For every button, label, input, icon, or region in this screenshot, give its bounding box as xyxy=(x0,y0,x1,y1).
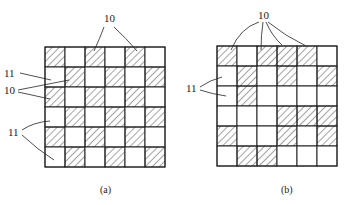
caption-a: (a) xyxy=(100,184,111,196)
hatched-cell xyxy=(237,66,257,86)
hatched-cell xyxy=(277,126,297,146)
hatched-cell xyxy=(45,87,65,107)
hatched-cell xyxy=(85,47,105,67)
caption-b: (b) xyxy=(281,184,293,196)
hatched-cell xyxy=(65,147,85,167)
blank-cell xyxy=(217,146,237,166)
hatched-cell xyxy=(125,127,145,147)
callout-label-10: 10 xyxy=(4,84,16,96)
hatched-cell xyxy=(237,146,257,166)
blank-cell xyxy=(317,86,337,106)
figure-a xyxy=(45,47,165,167)
blank-cell xyxy=(45,107,65,127)
blank-cell xyxy=(257,126,277,146)
blank-cell xyxy=(85,147,105,167)
hatched-cell xyxy=(105,67,125,87)
callout-label-10: 10 xyxy=(104,12,116,24)
callout-label-11: 11 xyxy=(4,67,15,79)
hatched-cell xyxy=(125,47,145,67)
blank-cell xyxy=(297,146,317,166)
blank-cell xyxy=(277,146,297,166)
hatched-cell xyxy=(65,67,85,87)
blank-cell xyxy=(45,147,65,167)
hatched-cell xyxy=(317,106,337,126)
blank-cell xyxy=(65,127,85,147)
blank-cell xyxy=(145,127,165,147)
hatched-cell xyxy=(45,47,65,67)
blank-cell xyxy=(277,86,297,106)
callout-label-11: 11 xyxy=(8,126,19,138)
blank-cell xyxy=(65,87,85,107)
hatched-cell xyxy=(105,147,125,167)
blank-cell xyxy=(65,47,85,67)
hatched-cell xyxy=(45,127,65,147)
blank-cell xyxy=(237,46,257,66)
hatched-cell xyxy=(297,106,317,126)
blank-cell xyxy=(317,46,337,66)
figure-b xyxy=(217,46,337,166)
hatched-cell xyxy=(65,107,85,127)
blank-cell xyxy=(297,126,317,146)
blank-cell xyxy=(237,126,257,146)
hatched-cell xyxy=(297,46,317,66)
blank-cell xyxy=(145,47,165,67)
hatched-cell xyxy=(85,127,105,147)
blank-cell xyxy=(105,87,125,107)
blank-cell xyxy=(257,106,277,126)
blank-cell xyxy=(237,106,257,126)
blank-cell xyxy=(105,127,125,147)
blank-cell xyxy=(85,107,105,127)
callout-label-11: 11 xyxy=(186,82,197,94)
blank-cell xyxy=(317,146,337,166)
hatched-cell xyxy=(217,46,237,66)
hatched-cell xyxy=(145,147,165,167)
hatched-cell xyxy=(317,126,337,146)
hatched-cell xyxy=(237,86,257,106)
hatched-cell xyxy=(217,126,237,146)
blank-cell xyxy=(257,66,277,86)
checkerboard-diagram: 101110111011 (a) (b) xyxy=(0,0,344,205)
blank-cell xyxy=(257,86,277,106)
hatched-cell xyxy=(257,46,277,66)
hatched-cell xyxy=(277,66,297,86)
blank-cell xyxy=(125,67,145,87)
blank-cell xyxy=(85,67,105,87)
blank-cell xyxy=(145,87,165,107)
callout-label-10: 10 xyxy=(258,9,270,21)
hatched-cell xyxy=(145,67,165,87)
hatched-cell xyxy=(277,106,297,126)
blank-cell xyxy=(105,47,125,67)
blank-cell xyxy=(217,86,237,106)
hatched-cell xyxy=(85,87,105,107)
hatched-cell xyxy=(125,87,145,107)
blank-cell xyxy=(217,106,237,126)
blank-cell xyxy=(217,66,237,86)
blank-cell xyxy=(297,86,317,106)
blank-cell xyxy=(125,107,145,127)
hatched-cell xyxy=(105,107,125,127)
blank-cell xyxy=(125,147,145,167)
hatched-cell xyxy=(317,66,337,86)
hatched-cell xyxy=(277,46,297,66)
hatched-cell xyxy=(145,107,165,127)
blank-cell xyxy=(297,66,317,86)
hatched-cell xyxy=(257,146,277,166)
